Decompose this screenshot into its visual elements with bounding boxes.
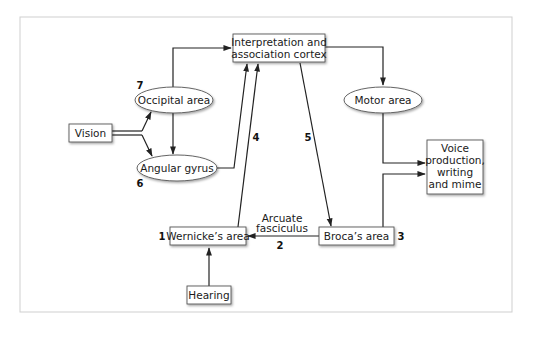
language-pathway-diagram: Interpretation and association cortex Oc…	[0, 0, 552, 337]
node-label: Vision	[75, 127, 106, 139]
node-label: and mime	[429, 178, 482, 190]
node-wernickes-area: Wernicke’s area	[166, 227, 249, 245]
node-label: Wernicke’s area	[166, 230, 249, 242]
step-number-4: 4	[253, 132, 260, 143]
node-hearing: Hearing	[187, 286, 231, 304]
node-label: writing	[437, 166, 473, 178]
node-label: Broca’s area	[324, 230, 389, 242]
node-vision: Vision	[69, 124, 112, 142]
node-label: Hearing	[188, 289, 229, 301]
step-number-1: 1	[159, 231, 166, 242]
node-label: Angular gyrus	[140, 162, 214, 174]
node-voice-production: Voice production, writing and mime	[425, 140, 485, 194]
node-interpretation-cortex: Interpretation and association cortex	[231, 34, 327, 62]
node-angular-gyrus: Angular gyrus	[137, 155, 217, 181]
node-brocas-area: Broca’s area	[319, 227, 394, 245]
node-label: Motor area	[354, 94, 411, 106]
step-number-5: 5	[305, 132, 312, 143]
node-label: Interpretation and	[231, 36, 327, 48]
step-number-3: 3	[398, 231, 405, 242]
node-label: Voice	[441, 142, 469, 154]
node-label: association cortex	[231, 48, 327, 60]
step-number-6: 6	[137, 178, 144, 189]
node-label: production,	[425, 154, 485, 166]
node-motor-area: Motor area	[344, 87, 422, 113]
step-number-2: 2	[277, 240, 284, 251]
node-label: Occipital area	[138, 94, 211, 106]
step-number-7: 7	[137, 80, 144, 91]
node-occipital-area: Occipital area	[135, 87, 213, 113]
arcuate-fasciculus-label: fasciculus	[256, 222, 308, 234]
